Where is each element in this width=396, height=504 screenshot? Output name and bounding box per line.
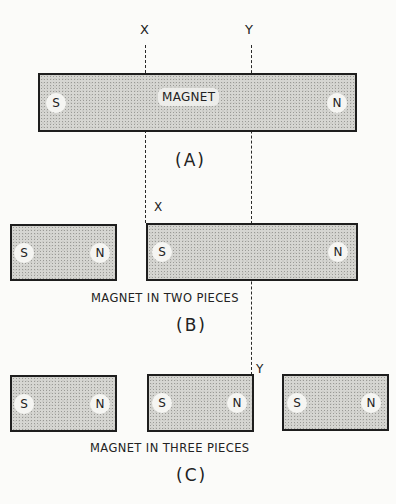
magnet-whole: S MAGNET N	[38, 73, 357, 132]
pole-north: N	[327, 93, 347, 113]
magnet-piece-c3: S N	[282, 374, 389, 431]
caption-b: MAGNET IN TWO PIECES	[91, 291, 239, 305]
magnet-piece-b1: S N	[10, 224, 117, 281]
cut-label-x-b: X	[154, 200, 162, 214]
magnet-piece-b2: S N	[146, 223, 358, 281]
pole-south: S	[14, 243, 34, 263]
figure-label-c: (C)	[176, 465, 207, 485]
magnet-piece-c1: S N	[10, 375, 117, 432]
pole-south: S	[46, 93, 66, 113]
cut-label-y: Y	[245, 22, 253, 37]
pole-north: N	[90, 243, 110, 263]
cut-line-x	[145, 45, 146, 223]
pole-north: N	[90, 394, 110, 414]
cut-label-y-c: Y	[256, 362, 263, 376]
magnet-piece-c2: S N	[147, 374, 254, 432]
pole-north: N	[361, 393, 381, 413]
pole-south: S	[152, 242, 172, 262]
figure-label-b: (B)	[176, 315, 207, 335]
pole-north: N	[227, 393, 247, 413]
figure-label-a: (A)	[175, 150, 206, 170]
pole-south: S	[152, 393, 172, 413]
cut-label-x: X	[140, 22, 149, 37]
pole-south: S	[14, 394, 34, 414]
caption-c: MAGNET IN THREE PIECES	[90, 441, 250, 455]
pole-north: N	[328, 242, 348, 262]
pole-south: S	[287, 393, 307, 413]
magnet-label: MAGNET	[158, 88, 219, 106]
